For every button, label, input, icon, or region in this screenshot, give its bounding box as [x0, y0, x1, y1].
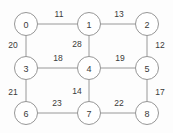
- edge-weight-7-8: 22: [114, 98, 124, 108]
- node-label-6: 6: [23, 109, 28, 119]
- graph-figure: 111320281218192114172322 012345678: [0, 0, 173, 133]
- node-label-0: 0: [23, 20, 28, 30]
- edge-weight-0-3: 20: [8, 40, 18, 50]
- graph-node-8[interactable]: 8: [136, 102, 159, 125]
- edge-weight-3-4: 18: [53, 53, 63, 63]
- graph-node-7[interactable]: 7: [78, 102, 101, 125]
- edge-weight-1-2: 13: [114, 9, 124, 19]
- node-label-4: 4: [86, 64, 91, 74]
- edge-weight-5-8: 17: [155, 87, 165, 97]
- node-label-3: 3: [23, 64, 28, 74]
- graph-node-6[interactable]: 6: [15, 102, 38, 125]
- node-label-7: 7: [86, 109, 91, 119]
- node-label-5: 5: [144, 64, 149, 74]
- nodes-layer: 012345678: [15, 13, 159, 125]
- graph-canvas: 111320281218192114172322 012345678: [0, 0, 173, 133]
- graph-node-2[interactable]: 2: [136, 13, 159, 36]
- graph-node-3[interactable]: 3: [15, 57, 38, 80]
- node-label-2: 2: [144, 20, 149, 30]
- node-label-8: 8: [144, 109, 149, 119]
- node-label-1: 1: [86, 20, 91, 30]
- edge-weight-1-4: 28: [72, 39, 82, 49]
- edge-weight-4-7: 14: [72, 86, 82, 96]
- graph-node-1[interactable]: 1: [78, 13, 101, 36]
- graph-node-4[interactable]: 4: [78, 57, 101, 80]
- edge-weight-4-5: 19: [115, 53, 125, 63]
- edge-weight-3-6: 21: [8, 87, 18, 97]
- graph-node-5[interactable]: 5: [136, 57, 159, 80]
- edge-weight-0-1: 11: [55, 9, 64, 19]
- edge-weight-2-5: 12: [155, 40, 165, 50]
- edge-weight-6-7: 23: [52, 98, 62, 108]
- graph-node-0[interactable]: 0: [15, 13, 38, 36]
